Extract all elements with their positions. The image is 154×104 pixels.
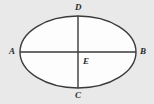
vertex-label-d: D: [75, 3, 82, 12]
vertex-label-a: A: [9, 47, 15, 56]
ellipse-diagram-canvas: A B D C E: [0, 0, 154, 104]
vertex-label-c: C: [75, 91, 81, 100]
ellipse-diagram-svg: [0, 0, 154, 104]
vertex-label-b: B: [140, 47, 146, 56]
center-label-e: E: [83, 57, 89, 66]
